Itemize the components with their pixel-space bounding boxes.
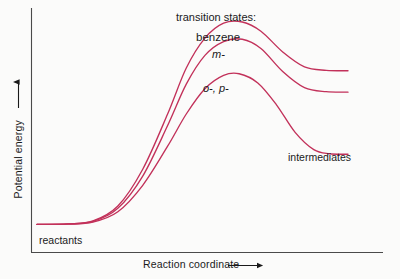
reactants-label: reactants (39, 235, 82, 246)
curve-label-ortho-para: o-, p- (203, 83, 229, 94)
energy-diagram-figure: transition states: benzene m- o-, p- int… (0, 0, 400, 279)
curve-benzene (37, 21, 348, 224)
curve-group (37, 21, 348, 224)
y-axis-label: Potential energy (13, 104, 24, 214)
x-axis-label: Reaction coordinate (143, 259, 239, 270)
transition-states-title: transition states: (176, 12, 256, 23)
intermediates-label: intermediates (288, 152, 351, 163)
curve-ortho-para (37, 73, 348, 224)
curve-label-meta: m- (212, 49, 225, 60)
curve-meta (37, 39, 348, 225)
curve-label-benzene: benzene (196, 32, 240, 44)
